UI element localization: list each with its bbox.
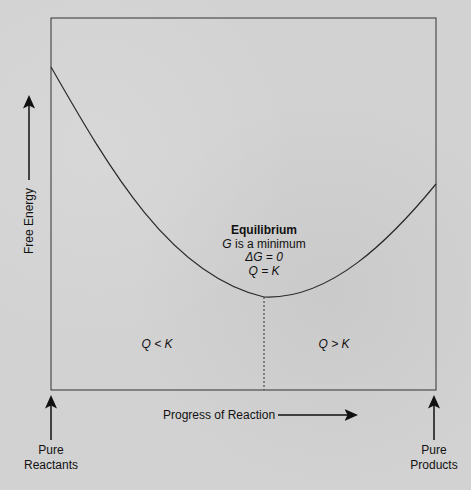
pure-products-label: Pure Products: [399, 443, 469, 473]
equilibrium-title: Equilibrium: [204, 224, 324, 238]
x-axis-label: Progress of Reaction: [163, 408, 275, 422]
equilibrium-line-deltag: ΔG = 0: [204, 251, 324, 265]
equilibrium-line-qk: Q = K: [204, 265, 324, 279]
equilibrium-annotation: Equilibrium G is a minimum ΔG = 0 Q = K: [204, 224, 324, 278]
region-left-label: Q < K: [127, 337, 187, 351]
equilibrium-line-g: G is a minimum: [204, 238, 324, 252]
y-axis-label: Free Energy: [22, 186, 36, 256]
plot-frame: [51, 18, 436, 390]
pure-reactants-label: Pure Reactants: [16, 443, 86, 473]
region-right-label: Q > K: [304, 337, 364, 351]
